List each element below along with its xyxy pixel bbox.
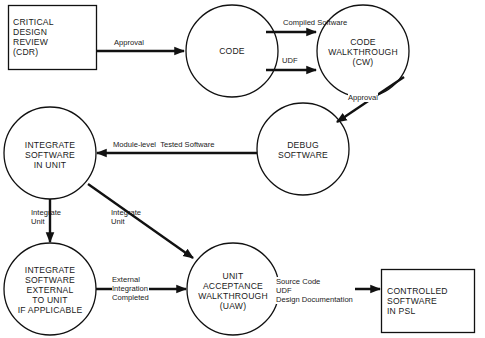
code-label: CODE	[186, 46, 278, 56]
controlled-label: CONTROLLED SOFTWARE IN PSL	[387, 286, 448, 316]
cdr-label: CRITICAL DESIGN REVIEW (CDR)	[13, 17, 54, 57]
edge-label-approval-1: Approval	[114, 38, 144, 47]
edge-label-approval-2: Approval	[348, 93, 378, 102]
uaw-label: UNIT ACCEPTANCE WALKTHROUGH (UAW)	[187, 271, 279, 311]
edge-label-integrate-unit-2: Integrate Unit	[111, 208, 141, 226]
integrate-external-label: INTEGRATE SOFTWARE EXTERNAL TO UNIT IF A…	[4, 265, 96, 315]
edge-label-module-level: Module-level Tested Software	[113, 140, 215, 149]
edge-label-compiled-software: Compiled Software	[283, 18, 347, 27]
cw-label: CODE WALKTHROUGH (CW)	[317, 37, 409, 67]
debug-label: DEBUG SOFTWARE	[257, 140, 349, 160]
edge-label-external-integration: External Integration Completed	[112, 275, 149, 302]
edge-label-integrate-unit-1: Integrate Unit	[31, 208, 61, 226]
integrate-unit-label: INTEGRATE SOFTWARE IN UNIT	[4, 140, 96, 170]
edge-label-udf: UDF	[282, 56, 298, 65]
edge-label-source-code: Source Code UDF Design Documentation	[276, 277, 355, 304]
